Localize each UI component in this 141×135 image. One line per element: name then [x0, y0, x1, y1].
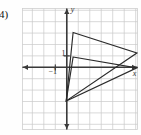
grid-border — [23, 9, 138, 130]
figure-container: 4) 1−1yx — [0, 0, 141, 135]
coordinate-plane: 1−1yx — [22, 8, 138, 130]
y-tick-label: 1 — [62, 49, 66, 58]
graph-svg: 1−1yx — [22, 8, 138, 130]
x-axis-label: x — [132, 69, 137, 78]
y-axis-label: y — [70, 8, 75, 14]
problem-number-label: 4) — [0, 8, 8, 20]
x-tick-label: −1 — [48, 67, 57, 76]
